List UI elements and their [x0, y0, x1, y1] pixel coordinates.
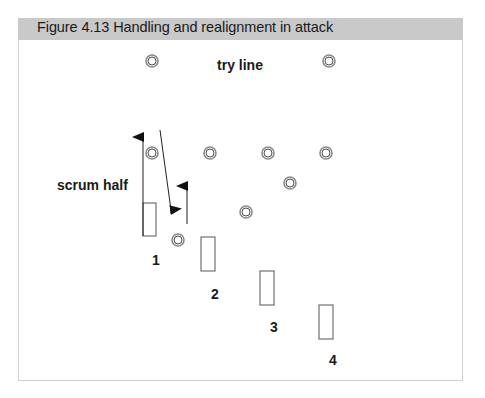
defender-circle-icon	[146, 147, 158, 159]
attacker-2: 2	[201, 237, 219, 302]
player-number-label: 2	[211, 286, 219, 302]
attacker-markers: 1234	[143, 203, 337, 368]
defender-circle-icon	[262, 147, 274, 159]
rugby-diagram: 1234 try line scrum half	[0, 0, 485, 398]
defender-circle-icon	[320, 147, 332, 159]
try-line-label: try line	[217, 57, 263, 73]
defender-circle-icon	[323, 55, 335, 67]
attacker-rect-icon	[260, 271, 274, 305]
diagonal-run-arrow-icon	[160, 130, 171, 210]
player-number-label: 4	[329, 352, 337, 368]
attacker-1: 1	[143, 203, 160, 268]
defender-circle-icon	[146, 55, 158, 67]
player-number-label: 1	[152, 252, 160, 268]
scrum-half-label: scrum half	[57, 177, 128, 193]
player-number-label: 3	[270, 319, 278, 335]
defender-circle-icon	[240, 206, 252, 218]
attacker-3: 3	[260, 271, 278, 335]
attacker-4: 4	[319, 305, 337, 368]
defender-circle-icon	[172, 234, 184, 246]
defender-markers	[146, 55, 335, 246]
attacker-rect-icon	[143, 203, 156, 236]
attacker-rect-icon	[201, 237, 215, 271]
defender-circle-icon	[284, 177, 296, 189]
defender-circle-icon	[204, 147, 216, 159]
attacker-rect-icon	[319, 305, 333, 339]
